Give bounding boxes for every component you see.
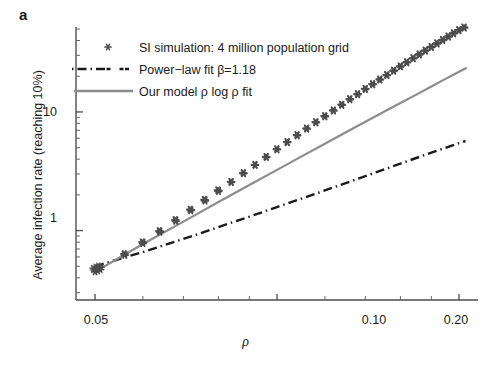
data-point-marker [361, 85, 369, 92]
series-power-law-fit [95, 141, 465, 266]
data-point-marker [390, 67, 398, 74]
data-point-marker [415, 51, 423, 58]
data-point-marker [303, 125, 311, 132]
data-point-marker [312, 119, 320, 126]
data-point-marker [338, 101, 346, 108]
data-point-marker [273, 146, 281, 153]
data-point-marker [330, 107, 338, 114]
data-point-marker [460, 24, 468, 31]
power-law-fit-line [95, 141, 465, 266]
data-point-marker [403, 59, 411, 66]
data-point-marker [321, 113, 329, 120]
data-point-marker [156, 228, 164, 235]
data-point-marker [409, 55, 417, 62]
data-point-marker [369, 81, 377, 88]
data-point-marker [346, 96, 354, 103]
series-our-model-fit [95, 68, 467, 272]
axis-lines [76, 27, 478, 300]
our-model-fit-line [95, 68, 467, 272]
plot-area [0, 0, 491, 367]
data-point-marker [186, 206, 194, 213]
data-point-marker [227, 178, 235, 185]
data-point-marker [376, 76, 384, 83]
data-point-marker [383, 72, 391, 79]
data-point-marker [354, 91, 362, 98]
data-point-marker [283, 139, 291, 146]
data-point-marker [240, 170, 248, 177]
data-point-marker [214, 187, 222, 194]
data-point-marker [171, 217, 179, 224]
series-si-simulation-points [90, 24, 468, 275]
legend-marker-swatches [72, 44, 133, 91]
figure-panel-a: a Average infection rate (reaching 10%) … [0, 0, 491, 367]
data-point-marker [201, 196, 209, 203]
data-point-marker [262, 153, 270, 160]
x-axis-ticks [95, 294, 459, 300]
data-point-marker [293, 132, 301, 139]
data-point-marker [251, 161, 259, 168]
data-point-marker [396, 63, 404, 70]
